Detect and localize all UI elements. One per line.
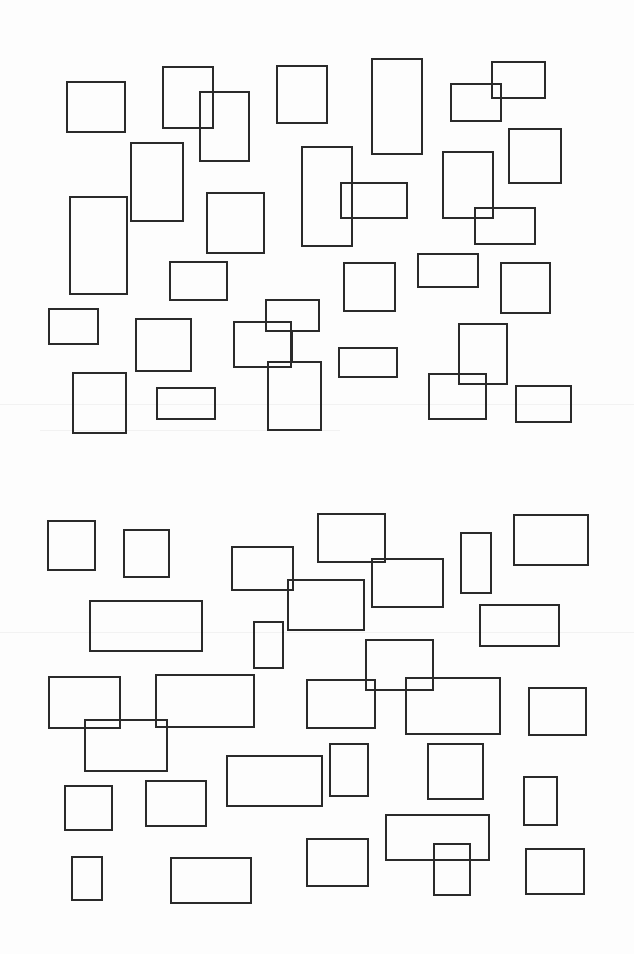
rectangle bbox=[451, 84, 501, 121]
rectangle bbox=[524, 777, 557, 825]
rectangle bbox=[171, 858, 251, 903]
rectangle bbox=[434, 844, 470, 895]
rectangle bbox=[475, 208, 535, 244]
bottom-panel bbox=[48, 514, 588, 903]
rectangle bbox=[428, 744, 483, 799]
rectangle bbox=[366, 640, 433, 690]
rectangle bbox=[501, 263, 550, 313]
rectangle bbox=[156, 675, 254, 727]
rectangle bbox=[65, 786, 112, 830]
rectangle bbox=[480, 605, 559, 646]
rectangle bbox=[49, 309, 98, 344]
rectangle bbox=[429, 374, 486, 419]
rectangle bbox=[372, 59, 422, 154]
rectangle bbox=[234, 322, 291, 367]
rectangle bbox=[386, 815, 489, 860]
rectangle bbox=[330, 744, 368, 796]
rectangle bbox=[339, 348, 397, 377]
rectangle bbox=[73, 373, 126, 433]
rectangle bbox=[254, 622, 283, 668]
rectangle bbox=[516, 386, 571, 422]
rectangle bbox=[67, 82, 125, 132]
rectangle bbox=[131, 143, 183, 221]
rectangles-figure bbox=[0, 0, 634, 954]
rectangle bbox=[526, 849, 584, 894]
rectangle bbox=[207, 193, 264, 253]
rectangle bbox=[266, 300, 319, 331]
rectangle bbox=[307, 839, 368, 886]
rectangle bbox=[529, 688, 586, 735]
rectangle bbox=[170, 262, 227, 300]
top-panel bbox=[49, 59, 571, 433]
rectangle bbox=[227, 756, 322, 806]
rectangle bbox=[509, 129, 561, 183]
rectangle bbox=[341, 183, 407, 218]
rectangle bbox=[344, 263, 395, 311]
rectangle bbox=[200, 92, 249, 161]
rectangle bbox=[48, 521, 95, 570]
rectangle bbox=[461, 533, 491, 593]
rectangle bbox=[163, 67, 213, 128]
rectangle bbox=[307, 680, 375, 728]
rectangle bbox=[418, 254, 478, 287]
rectangle bbox=[406, 678, 500, 734]
rectangle bbox=[157, 388, 215, 419]
rectangle bbox=[70, 197, 127, 294]
rectangle bbox=[124, 530, 169, 577]
rectangle bbox=[232, 547, 293, 590]
rectangle bbox=[372, 559, 443, 607]
rectangle bbox=[288, 580, 364, 630]
rectangle bbox=[514, 515, 588, 565]
rectangle bbox=[268, 362, 321, 430]
figure-canvas bbox=[0, 0, 634, 954]
rectangle bbox=[90, 601, 202, 651]
rectangle bbox=[72, 857, 102, 900]
rectangle bbox=[302, 147, 352, 246]
rectangle bbox=[492, 62, 545, 98]
rectangle bbox=[136, 319, 191, 371]
rectangle bbox=[318, 514, 385, 562]
rectangle bbox=[277, 66, 327, 123]
rectangle bbox=[146, 781, 206, 826]
